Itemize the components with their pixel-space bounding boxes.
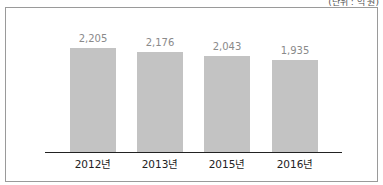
bar-2012 xyxy=(70,48,116,152)
value-label-2012: 2,205 xyxy=(58,33,128,44)
bar-2013 xyxy=(137,52,183,152)
bar-2015 xyxy=(204,56,250,152)
x-axis-line xyxy=(45,152,342,153)
category-label-2013: 2013년 xyxy=(125,156,195,171)
value-label-2016: 1,935 xyxy=(260,45,330,56)
category-label-2015: 2015년 xyxy=(192,156,262,171)
bar-chart: 2,205 2,176 2,043 1,935 2012년 2013년 2015… xyxy=(0,0,383,185)
bar-2016 xyxy=(272,60,318,152)
value-label-2015: 2,043 xyxy=(192,41,262,52)
category-label-2016: 2016년 xyxy=(260,156,330,171)
category-label-2012: 2012년 xyxy=(58,156,128,171)
value-label-2013: 2,176 xyxy=(125,37,195,48)
